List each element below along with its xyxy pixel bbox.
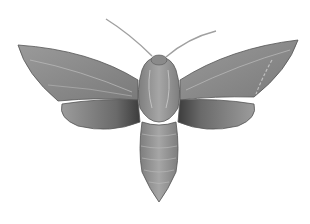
left-forewing xyxy=(18,45,138,101)
moth-figure xyxy=(0,0,310,224)
abdomen xyxy=(140,122,178,202)
right-forewing xyxy=(180,40,298,100)
moth-illustration xyxy=(0,0,310,224)
right-hindwing xyxy=(178,100,255,130)
thorax xyxy=(138,56,179,122)
head xyxy=(151,55,167,65)
antennae xyxy=(106,19,216,57)
left-hindwing xyxy=(61,100,140,130)
